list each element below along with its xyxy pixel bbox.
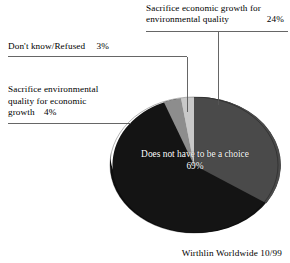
callout-line-3-row: growth 4% — [8, 107, 98, 119]
callout-line-2: environmental quality — [146, 14, 229, 25]
callout-line-3: growth — [8, 107, 35, 117]
callout-value-economic-growth: 24% — [267, 14, 284, 25]
callout-text-dont-know: Don't know/Refused — [8, 41, 85, 51]
callout-line-1: Don't know/Refused 3% — [8, 41, 109, 52]
pie-chart-figure: Sacrifice economic growth for environmen… — [0, 0, 290, 263]
callout-line-2-row: environmental quality 24% — [146, 14, 284, 25]
callout-line-2: quality for economic — [8, 96, 98, 108]
pie-slice-label-does-not-have-to-be-a-choice: Does not have to be a choice 69% — [110, 148, 280, 172]
pie-chart-graphic — [0, 0, 290, 263]
callout-value-dont-know: 3% — [97, 41, 109, 51]
callout-sacrifice-economic-growth: Sacrifice economic growth for environmen… — [146, 3, 284, 26]
callout-dont-know-refused: Don't know/Refused 3% — [8, 41, 109, 52]
callout-line-1: Sacrifice environmental — [8, 84, 98, 96]
center-label-value: 69% — [110, 160, 280, 172]
callout-value-environmental-quality: 4% — [44, 107, 56, 117]
source-attribution: Wirthlin Worldwide 10/99 — [182, 248, 282, 258]
center-label-text: Does not have to be a choice — [141, 149, 249, 159]
callout-line-1: Sacrifice economic growth for — [146, 3, 284, 14]
callout-sacrifice-environmental-quality: Sacrifice environmental quality for econ… — [8, 84, 98, 119]
